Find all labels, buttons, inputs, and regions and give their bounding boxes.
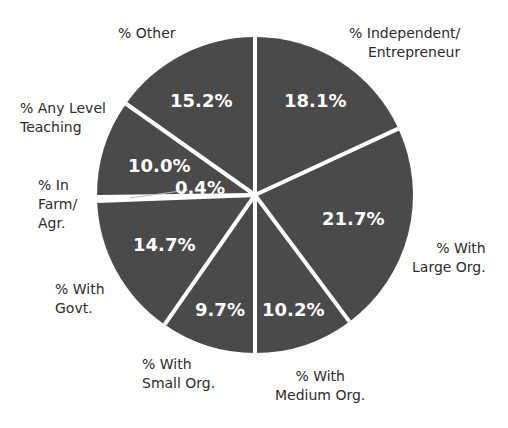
category-label-other: % Other (118, 24, 176, 43)
category-label-large: % With Large Org. (412, 239, 486, 277)
value-label-small: 9.7% (195, 299, 245, 320)
category-label-medium: % With Medium Org. (275, 367, 365, 405)
value-label-medium: 10.2% (262, 299, 324, 320)
value-label-large: 21.7% (322, 208, 384, 229)
category-label-small: % With Small Org. (142, 355, 215, 393)
value-label-independent: 18.1% (284, 90, 346, 111)
value-label-govt: 14.7% (133, 234, 195, 255)
value-label-teaching: 10.0% (128, 155, 190, 176)
category-label-govt: % With Govt. (55, 280, 105, 318)
category-label-teaching: % Any Level Teaching (20, 99, 106, 137)
category-label-farm: % In Farm/ Agr. (38, 176, 77, 233)
category-label-independent: % Independent/ Entrepreneur (349, 24, 460, 62)
value-label-other: 15.2% (170, 90, 232, 111)
value-label-farm: 0.4% (175, 177, 225, 198)
